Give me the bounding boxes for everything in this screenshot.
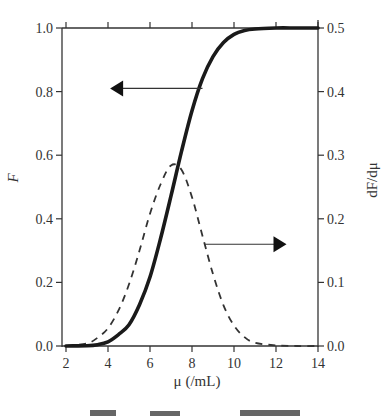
x-axis-ticks: 2468101214 xyxy=(63,22,326,371)
x-tick-label: 14 xyxy=(311,356,325,371)
chart: 2468101214 0.00.20.40.60.81.0 0.00.10.20… xyxy=(0,0,387,416)
left-axis-arrow xyxy=(110,80,202,96)
y-tick-label-left: 0.2 xyxy=(36,275,54,290)
cumulative-curve-solid xyxy=(66,28,318,346)
y-tick-label-right: 0.5 xyxy=(327,21,345,36)
y-axis-label-right: dF/dμ xyxy=(364,162,380,198)
y-tick-label-left: 0.8 xyxy=(36,85,54,100)
plot-frame xyxy=(62,20,318,347)
x-axis-label: μ (/mL) xyxy=(174,373,221,390)
y-tick-label-left: 0.6 xyxy=(36,148,54,163)
y-tick-label-left: 0.0 xyxy=(36,339,54,354)
y-axis-label-left: F xyxy=(5,173,21,184)
x-tick-label: 12 xyxy=(269,356,283,371)
y-tick-label-right: 0.2 xyxy=(327,212,345,227)
y-axis-ticks-left: 0.00.20.40.60.81.0 xyxy=(36,21,63,354)
derivative-curve-dashed xyxy=(66,164,318,346)
y-tick-label-right: 0.0 xyxy=(327,339,345,354)
y-axis-ticks-right: 0.00.10.20.30.40.5 xyxy=(318,21,345,354)
x-tick-label: 6 xyxy=(147,356,154,371)
x-tick-label: 10 xyxy=(227,356,241,371)
y-tick-label-left: 1.0 xyxy=(36,21,54,36)
y-tick-label-right: 0.4 xyxy=(327,85,345,100)
right-axis-arrow xyxy=(205,236,287,252)
y-tick-label-right: 0.1 xyxy=(327,275,345,290)
figure-caption-cutoff xyxy=(90,410,300,416)
x-tick-label: 8 xyxy=(189,356,196,371)
y-tick-label-left: 0.4 xyxy=(36,212,54,227)
x-tick-label: 2 xyxy=(63,356,70,371)
x-tick-label: 4 xyxy=(105,356,112,371)
y-tick-label-right: 0.3 xyxy=(327,148,345,163)
